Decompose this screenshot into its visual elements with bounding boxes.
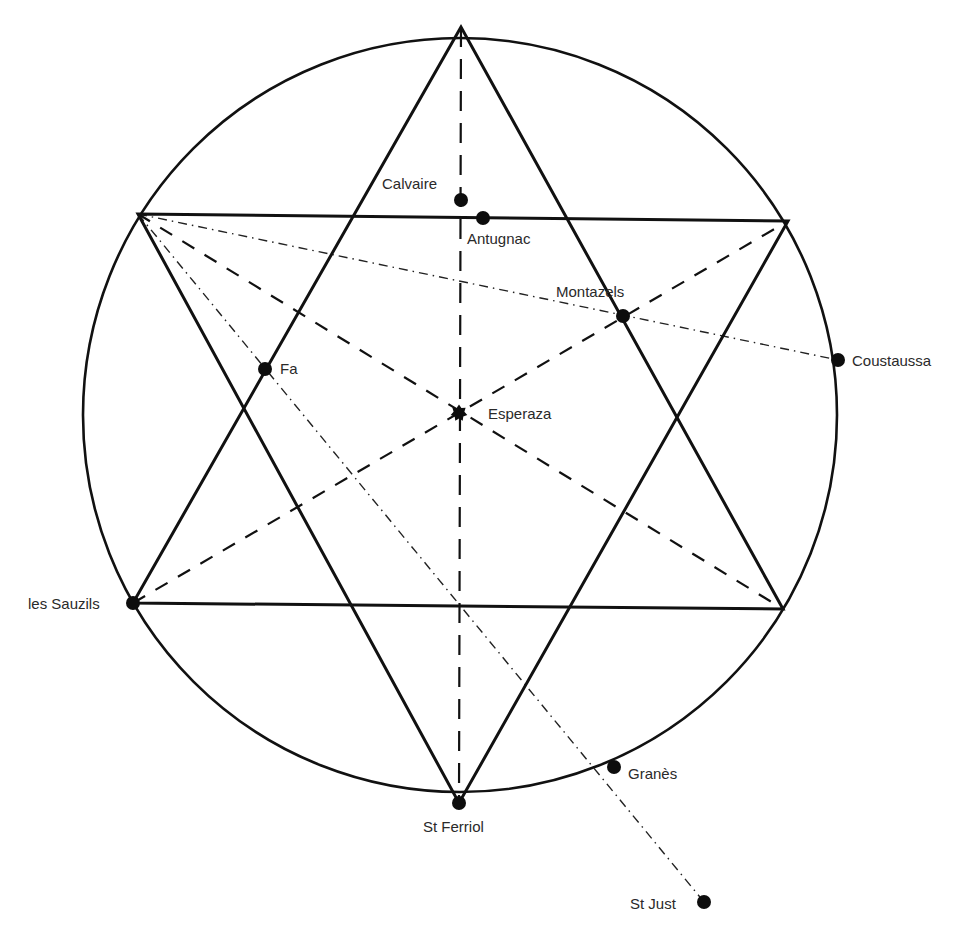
montazels-label: Montazels [556,283,624,300]
calvaire-point-icon [454,193,468,207]
les-sauzils-label: les Sauzils [28,595,100,612]
place-points [126,193,845,909]
les-sauzils-point-icon [126,596,140,610]
coustaussa-point-icon [831,353,845,367]
antugnac-label: Antugnac [467,230,531,247]
st-ferriol-point-icon [452,796,466,810]
antugnac-point-icon [476,211,490,225]
st-just-label: St Just [630,895,677,912]
montazels-point-icon [616,309,630,323]
esperaza-label: Esperaza [488,405,552,422]
hexagram-map-diagram: CalvaireAntugnacMontazelsCoustaussaFaEsp… [0,0,970,928]
granes-point-icon [607,760,621,774]
fa-label: Fa [280,360,298,377]
st-ferriol-label: St Ferriol [423,818,484,835]
coustaussa-label: Coustaussa [852,352,932,369]
fa-point-icon [258,362,272,376]
st-just-point-icon [697,895,711,909]
calvaire-label: Calvaire [382,175,437,192]
granes-label: Granès [628,765,677,782]
